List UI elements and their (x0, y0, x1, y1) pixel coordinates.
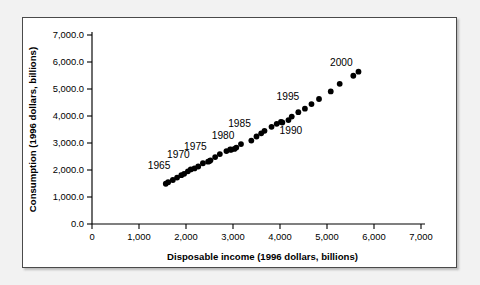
data-point (233, 145, 239, 151)
year-annotation: 1990 (280, 125, 303, 136)
x-tick-label: 6,000 (362, 231, 385, 242)
year-annotation: 2000 (330, 57, 353, 68)
data-point (350, 73, 356, 79)
y-axis-ticks (87, 35, 92, 224)
data-point (248, 138, 254, 144)
x-tick-label: 3,000 (221, 231, 244, 242)
data-points (163, 69, 361, 187)
y-tick-label: 4,000.0 (53, 110, 84, 121)
scatter-plot: 0.01,000.02,000.03,000.04,000.05,000.06,… (23, 18, 458, 269)
x-axis: 01,0002,0003,0004,0005,0006,0007,000 (89, 224, 432, 242)
x-tick-label: 4,000 (268, 231, 291, 242)
year-annotations: 19651970197519801985199019952000 (148, 57, 353, 171)
data-point (254, 134, 260, 140)
scatter-chart-svg: 0.01,000.02,000.03,000.04,000.05,000.06,… (23, 18, 458, 269)
data-point (200, 160, 206, 166)
data-point (328, 89, 334, 95)
year-annotation: 1975 (184, 141, 207, 152)
data-point (356, 69, 362, 75)
y-axis-tick-labels: 0.01,000.02,000.03,000.04,000.05,000.06,… (53, 29, 84, 229)
y-axis-title: Consumption (1996 dollars, billions) (27, 47, 38, 212)
x-axis-tick-labels: 01,0002,0003,0004,0005,0006,0007,000 (89, 231, 432, 242)
data-point (262, 128, 268, 134)
data-point (309, 101, 315, 107)
data-point (295, 109, 301, 115)
chart-panel: 0.01,000.02,000.03,000.04,000.05,000.06,… (22, 17, 457, 268)
y-tick-label: 7,000.0 (53, 29, 84, 40)
y-tick-label: 5,000.0 (53, 83, 84, 94)
x-axis-title: Disposable income (1996 dollars, billion… (167, 251, 358, 262)
year-annotation: 1980 (212, 130, 235, 141)
y-axis: 0.01,000.02,000.03,000.04,000.05,000.06,… (53, 29, 92, 229)
x-axis-ticks (92, 224, 421, 229)
data-point (302, 106, 308, 112)
y-tick-label: 3,000.0 (53, 137, 84, 148)
data-point (269, 124, 275, 130)
x-tick-label: 1,000 (127, 231, 150, 242)
y-tick-label: 0.0 (71, 218, 84, 229)
data-point (195, 164, 201, 170)
year-annotation: 1985 (228, 118, 251, 129)
x-tick-label: 7,000 (409, 231, 432, 242)
y-tick-label: 1,000.0 (53, 191, 84, 202)
data-point (208, 157, 214, 163)
data-point (316, 96, 322, 102)
x-tick-label: 5,000 (315, 231, 338, 242)
data-point (289, 114, 295, 120)
year-annotation: 1995 (277, 91, 300, 102)
screenshot-root: 0.01,000.02,000.03,000.04,000.05,000.06,… (0, 0, 480, 285)
data-point (238, 141, 244, 147)
x-tick-label: 2,000 (174, 231, 197, 242)
data-point (217, 151, 223, 157)
year-annotation: 1965 (148, 160, 171, 171)
y-tick-label: 2,000.0 (53, 164, 84, 175)
data-point (337, 81, 343, 87)
y-tick-label: 6,000.0 (53, 56, 84, 67)
x-tick-label: 0 (89, 231, 94, 242)
